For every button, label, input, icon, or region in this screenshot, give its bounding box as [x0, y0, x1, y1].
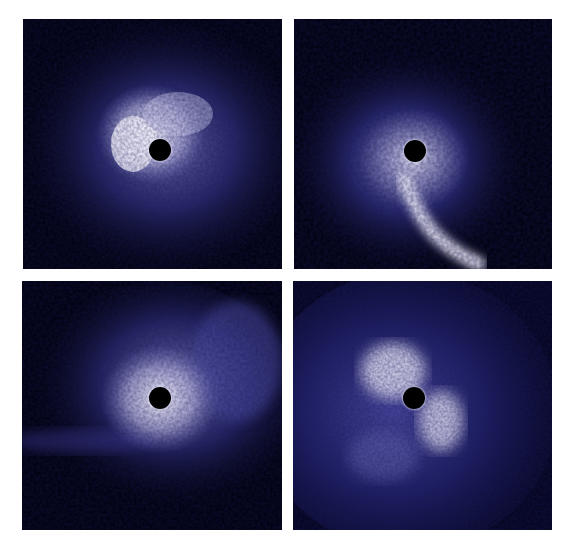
disk-spiral-image: [293, 281, 552, 530]
image-panel-bottom-left: [22, 281, 282, 530]
image-panel-top-right: [294, 19, 552, 269]
image-panel-top-left: [23, 19, 282, 269]
coronagraph-occulter: [149, 387, 171, 409]
coronagraph-occulter: [403, 387, 425, 409]
coronagraph-occulter: [404, 140, 426, 162]
coronagraph-occulter: [149, 139, 171, 161]
image-panel-bottom-right: [293, 281, 552, 530]
